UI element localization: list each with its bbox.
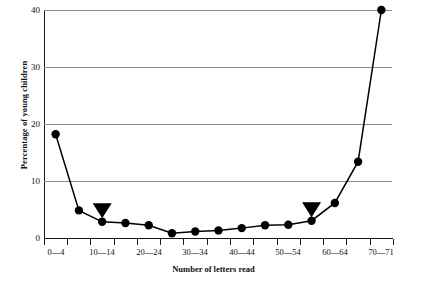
data-point-marker — [284, 220, 292, 228]
chart-figure: Percentage of young children 40 30 20 10… — [0, 0, 427, 285]
data-point-marker — [191, 227, 199, 235]
data-point-marker — [377, 6, 385, 14]
data-point-marker — [354, 158, 362, 166]
data-point-marker — [214, 226, 222, 234]
data-point-marker — [145, 221, 153, 229]
data-point-marker — [98, 218, 106, 226]
data-point-marker — [307, 216, 315, 224]
data-point-marker — [51, 130, 59, 138]
data-series-layer — [0, 0, 427, 285]
data-point-marker — [75, 206, 83, 214]
data-point-marker — [331, 199, 339, 207]
data-point-marker — [168, 229, 176, 237]
data-point-marker — [121, 219, 129, 227]
data-point-marker — [261, 221, 269, 229]
data-point-marker — [238, 224, 246, 232]
annotation-triangles — [93, 202, 321, 218]
data-point-markers — [51, 6, 385, 238]
triangle-marker-left — [93, 203, 112, 218]
